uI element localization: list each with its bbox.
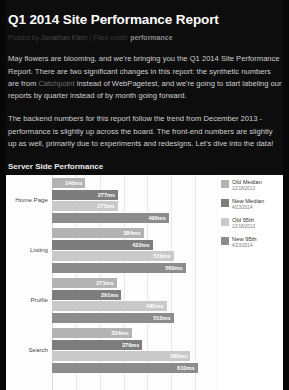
chart-bar-value-label: 271ms xyxy=(96,280,113,286)
legend-series-name: New Median xyxy=(232,198,283,205)
chart-bar: 271ms xyxy=(52,278,117,288)
chart-bars: 271ms291ms480ms510ms xyxy=(52,278,219,324)
chart-group: Search334ms379ms580ms610ms xyxy=(6,325,219,375)
chart-bar: 510ms xyxy=(52,251,174,261)
chart-bar: 510ms xyxy=(52,313,174,323)
chart-bar: 580ms xyxy=(52,351,190,361)
legend-series-name: Old 95th xyxy=(232,217,283,224)
chart-bar: 384ms xyxy=(52,228,144,238)
chart-bar-value-label: 275ms xyxy=(97,203,114,209)
chart-bar: 422ms xyxy=(52,240,153,250)
chart-category-label: Profile xyxy=(6,296,48,304)
chart-bar: 490ms xyxy=(52,213,169,223)
legend-series-date: 12/18/2013 xyxy=(232,224,283,230)
legend-item[interactable]: Old Median12/18/2013 xyxy=(221,179,283,192)
legend-item[interactable]: New Median4/23/2014 xyxy=(221,198,283,211)
paragraph-1: May flowers are blooming, and we're brin… xyxy=(8,53,283,102)
right-gutter xyxy=(283,0,289,390)
chart-bar-value-label: 379ms xyxy=(122,342,139,348)
chart-bar-value-label: 422ms xyxy=(132,242,149,248)
legend-item[interactable]: Old 95th12/18/2013 xyxy=(221,217,283,230)
chart-bar: 140ms xyxy=(52,178,85,188)
chart-bar-value-label: 334ms xyxy=(111,330,128,336)
chart-bar-value-label: 610ms xyxy=(177,365,194,371)
catchpoint-link[interactable]: Catchpoint xyxy=(38,79,74,88)
legend-series-date: 4/23/2014 xyxy=(232,205,283,211)
chart-bar-value-label: 140ms xyxy=(65,180,82,186)
chart-bar: 480ms xyxy=(52,301,167,311)
chart-bars: 334ms379ms580ms610ms xyxy=(52,328,219,374)
chart-plot-area: Home Page140ms277ms275ms490msListing384m… xyxy=(6,175,219,390)
legend-series-date: 12/18/2013 xyxy=(232,186,283,192)
legend-series-date: 4/23/2014 xyxy=(232,243,283,249)
legend-swatch xyxy=(221,180,229,188)
legend-swatch xyxy=(221,218,229,226)
chart-bar-value-label: 510ms xyxy=(153,315,170,321)
chart-group: Listing384ms422ms510ms560ms xyxy=(6,225,219,275)
byline-separator: | Filed under xyxy=(89,34,128,41)
chart-bar: 334ms xyxy=(52,328,132,338)
byline-author-link[interactable]: Jonathan Klein xyxy=(41,34,87,41)
legend-swatch xyxy=(221,199,229,207)
chart-category-label: Search xyxy=(6,346,48,354)
chart-group: Home Page140ms277ms275ms490ms xyxy=(6,175,219,225)
section-heading-server-side: Server Side Performance xyxy=(8,162,283,171)
legend-item[interactable]: New 95th4/23/2014 xyxy=(221,236,283,249)
chart-bar-value-label: 560ms xyxy=(165,265,182,271)
byline-prefix: Posted by xyxy=(8,34,39,41)
chart-bar: 610ms xyxy=(52,363,198,373)
chart-bar: 277ms xyxy=(52,190,118,200)
legend-swatch xyxy=(221,237,229,245)
chart-bar: 275ms xyxy=(52,201,118,211)
chart-bar-value-label: 277ms xyxy=(98,192,115,198)
chart-bars: 140ms277ms275ms490ms xyxy=(52,178,219,224)
page-title: Q1 2014 Site Performance Report xyxy=(8,12,283,28)
chart-bar-value-label: 580ms xyxy=(170,353,187,359)
chart-bar: 560ms xyxy=(52,263,186,273)
chart-bar-value-label: 291ms xyxy=(101,292,118,298)
chart-group: Profile271ms291ms480ms510ms xyxy=(6,275,219,325)
chart-bars: 384ms422ms510ms560ms xyxy=(52,228,219,274)
article-page: Q1 2014 Site Performance Report Posted b… xyxy=(0,0,289,390)
byline-tag-link[interactable]: performance xyxy=(130,34,172,41)
chart-bar: 379ms xyxy=(52,340,142,350)
chart-bar: 291ms xyxy=(52,290,121,300)
chart-category-label: Listing xyxy=(6,246,48,254)
performance-bar-chart: Home Page140ms277ms275ms490msListing384m… xyxy=(6,175,283,390)
paragraph-2: The backend numbers for this report foll… xyxy=(8,113,283,150)
chart-bar-value-label: 384ms xyxy=(123,230,140,236)
byline: Posted by Jonathan Klein | Filed under p… xyxy=(8,33,283,42)
legend-series-name: New 95th xyxy=(232,236,283,243)
chart-category-label: Home Page xyxy=(6,196,48,204)
chart-bar-value-label: 480ms xyxy=(146,303,163,309)
chart-bar-value-label: 490ms xyxy=(148,215,165,221)
chart-bar-value-label: 510ms xyxy=(153,253,170,259)
legend-series-name: Old Median xyxy=(232,179,283,186)
chart-legend: Old Median12/18/2013New Median4/23/2014O… xyxy=(221,179,283,255)
chart-bar-groups: Home Page140ms277ms275ms490msListing384m… xyxy=(6,175,219,390)
